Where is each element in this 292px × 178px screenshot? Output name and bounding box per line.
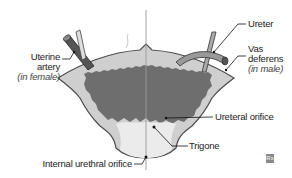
leader-uterine-artery bbox=[62, 52, 74, 59]
label-vas-deferens-note: (in male) bbox=[248, 64, 283, 74]
leader-vas-deferens bbox=[226, 56, 246, 70]
label-ureter: Ureter bbox=[248, 19, 273, 29]
label-vas-deferens: Vas deferens bbox=[248, 44, 283, 64]
label-trigone: Trigone bbox=[189, 141, 219, 151]
ligament-fiber bbox=[126, 34, 128, 48]
label-ureteral-orifice: Ureteral orifice bbox=[215, 112, 274, 122]
label-uterine-artery: Uterine artery bbox=[20, 52, 60, 72]
label-internal-urethral-orifice: Internal urethral orifice bbox=[10, 159, 132, 169]
rx-badge-icon: Rx bbox=[266, 154, 274, 163]
bladder-diagram: Uterine artery (in female) Ureter Vas de… bbox=[0, 0, 292, 178]
label-uterine-artery-note: (in female) bbox=[6, 72, 60, 82]
leader-ureter bbox=[214, 24, 246, 52]
bladder-mucosa bbox=[84, 65, 212, 124]
